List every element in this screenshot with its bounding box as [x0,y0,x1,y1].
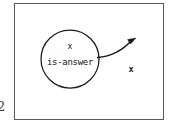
diagram-svg: x is-answer x [0,0,178,124]
target-variable-label: x [128,64,133,74]
figure-canvas: 2 x is-answer x [0,0,178,124]
node-predicate-label: is-answer [47,57,94,67]
curved-arrow-shaft [98,41,132,58]
node-variable-label: x [68,42,73,51]
